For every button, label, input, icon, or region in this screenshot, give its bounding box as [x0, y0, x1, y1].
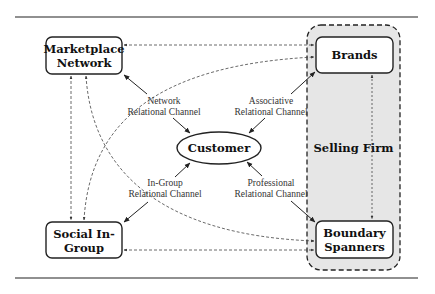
label-network-channel: Network Relational Channel [127, 96, 200, 117]
svg-text:Relational Channel: Relational Channel [127, 107, 200, 117]
node-boundary-spanners: Boundary Spanners [316, 221, 393, 258]
svg-text:Brands: Brands [331, 48, 377, 62]
label-professional-channel: Professional Relational Channel [234, 178, 307, 199]
selling-firm-label: Selling Firm [314, 141, 394, 155]
svg-text:Professional: Professional [248, 178, 295, 188]
svg-text:Marketplace: Marketplace [43, 42, 124, 56]
arrow-ingroup-to-customer [175, 163, 190, 177]
node-marketplace-network: Marketplace Network [43, 37, 124, 74]
label-associative-channel: Associative Relational Channel [234, 96, 307, 117]
svg-text:Relational Channel: Relational Channel [234, 189, 307, 199]
arrow-network-to-marketplace [124, 75, 147, 94]
svg-text:Network: Network [147, 96, 180, 106]
arrow-professional-to-customer [247, 162, 262, 176]
svg-text:Associative: Associative [249, 96, 293, 106]
svg-text:Social In-: Social In- [53, 227, 115, 241]
svg-text:In-Group: In-Group [147, 178, 183, 188]
svg-text:Relational Channel: Relational Channel [128, 189, 201, 199]
node-brands: Brands [316, 37, 393, 73]
label-ingroup-channel: In-Group Relational Channel [128, 178, 201, 199]
svg-text:Group: Group [64, 241, 104, 255]
arrow-associative-to-customer [249, 118, 265, 133]
arrow-ingroup-to-social [124, 202, 148, 222]
relational-channels-diagram: Selling Firm Network Relational Channel … [0, 0, 435, 294]
svg-text:Relational Channel: Relational Channel [234, 107, 307, 117]
arrow-network-to-customer [173, 118, 190, 133]
svg-text:Network: Network [57, 56, 113, 70]
svg-text:Spanners: Spanners [324, 240, 384, 254]
svg-text:Customer: Customer [188, 141, 251, 155]
node-social-in-group: Social In- Group [46, 222, 122, 258]
node-customer: Customer [177, 132, 261, 164]
svg-text:Boundary: Boundary [323, 226, 386, 240]
